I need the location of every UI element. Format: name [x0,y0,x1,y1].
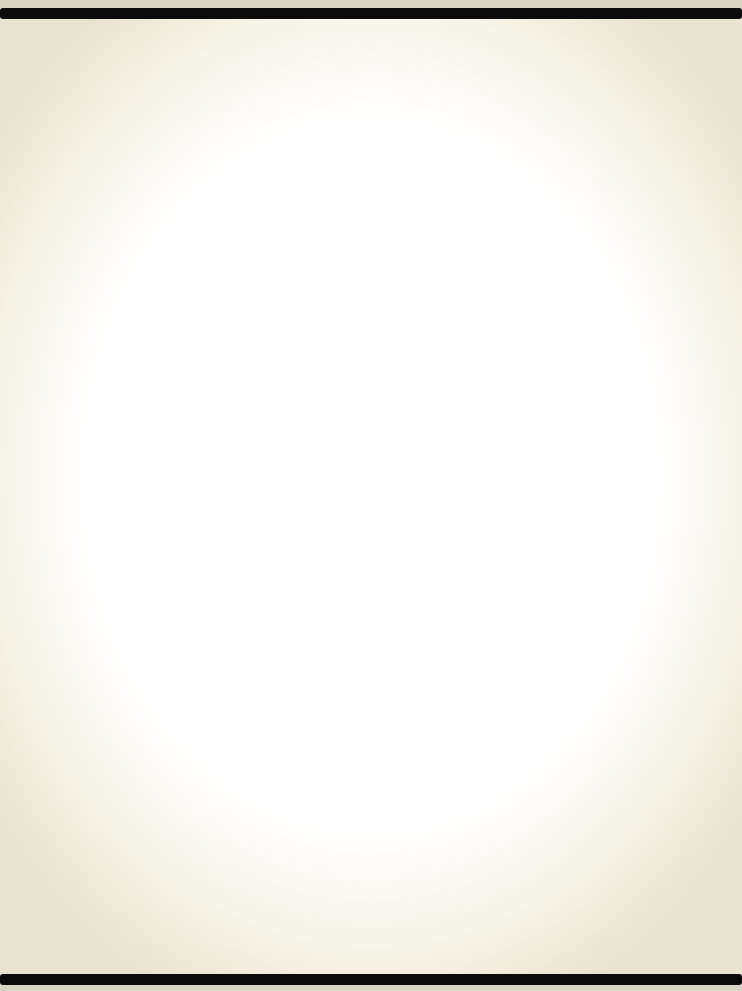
blank-page [0,19,742,974]
scan-edge-top [0,0,742,8]
scan-edge-bottom [0,985,742,991]
scan-border-top [0,8,742,19]
scan-border-bottom [0,974,742,985]
